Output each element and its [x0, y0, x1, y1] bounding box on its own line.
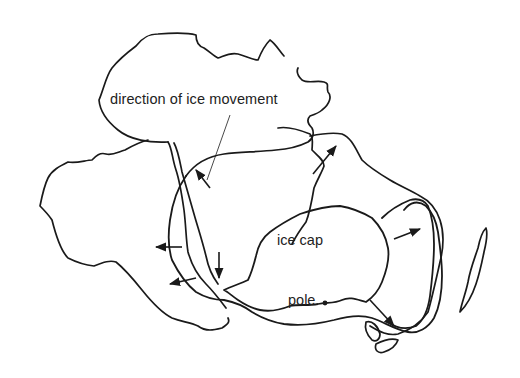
coastline-central-peninsula	[186, 68, 330, 176]
pole-label: pole	[288, 292, 315, 308]
coastline-east-arc	[310, 133, 443, 334]
coastline-east-island	[460, 228, 487, 312]
coastline-islet-2	[375, 339, 398, 352]
ice-sheet-boundary	[169, 176, 442, 332]
arrow-nw-icon	[196, 170, 210, 188]
arrow-ne-icon	[313, 146, 336, 174]
gondwana-glaciation-diagram: direction of ice movement ice cap pole	[0, 0, 520, 378]
coastline-north	[99, 33, 284, 142]
label-leader-line	[207, 115, 230, 180]
arrow-e-icon	[394, 229, 420, 239]
ice-cap-label: ice cap	[277, 232, 323, 248]
coastline-channel-right	[174, 143, 218, 284]
direction-of-ice-movement-label: direction of ice movement	[110, 91, 278, 107]
ice-lobe-right	[382, 199, 434, 328]
pole-marker-icon	[323, 301, 328, 306]
map-drawing	[0, 0, 520, 378]
